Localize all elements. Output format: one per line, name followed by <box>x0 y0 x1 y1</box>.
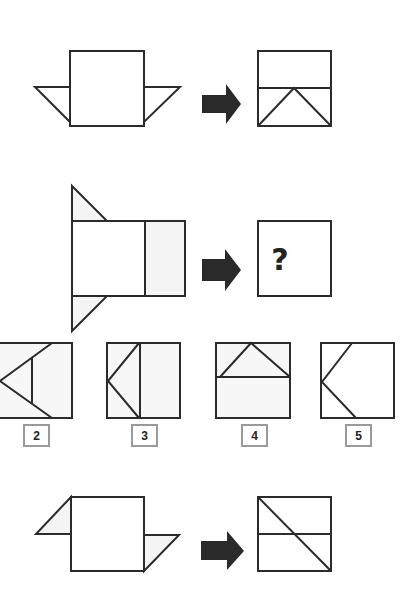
example-2-result <box>258 497 331 571</box>
puzzle-canvas <box>0 0 418 608</box>
arrow-right-icon <box>202 249 241 291</box>
arrow-right-icon <box>201 531 244 570</box>
question-source <box>72 186 185 331</box>
option-label-4[interactable]: 4 <box>241 424 268 447</box>
option-3-figure[interactable] <box>107 343 180 418</box>
option-label-3[interactable]: 3 <box>131 424 158 447</box>
example-2-source <box>36 497 179 571</box>
option-2-figure[interactable] <box>0 343 72 418</box>
example-1-result <box>258 51 331 126</box>
option-5-figure[interactable] <box>321 343 394 418</box>
example-1-source <box>35 51 180 126</box>
arrow-right-icon <box>202 84 241 124</box>
question-mark: ? <box>257 236 303 282</box>
option-label-2[interactable]: 2 <box>23 424 50 447</box>
option-label-5[interactable]: 5 <box>345 424 372 447</box>
option-4-figure[interactable] <box>216 343 290 418</box>
